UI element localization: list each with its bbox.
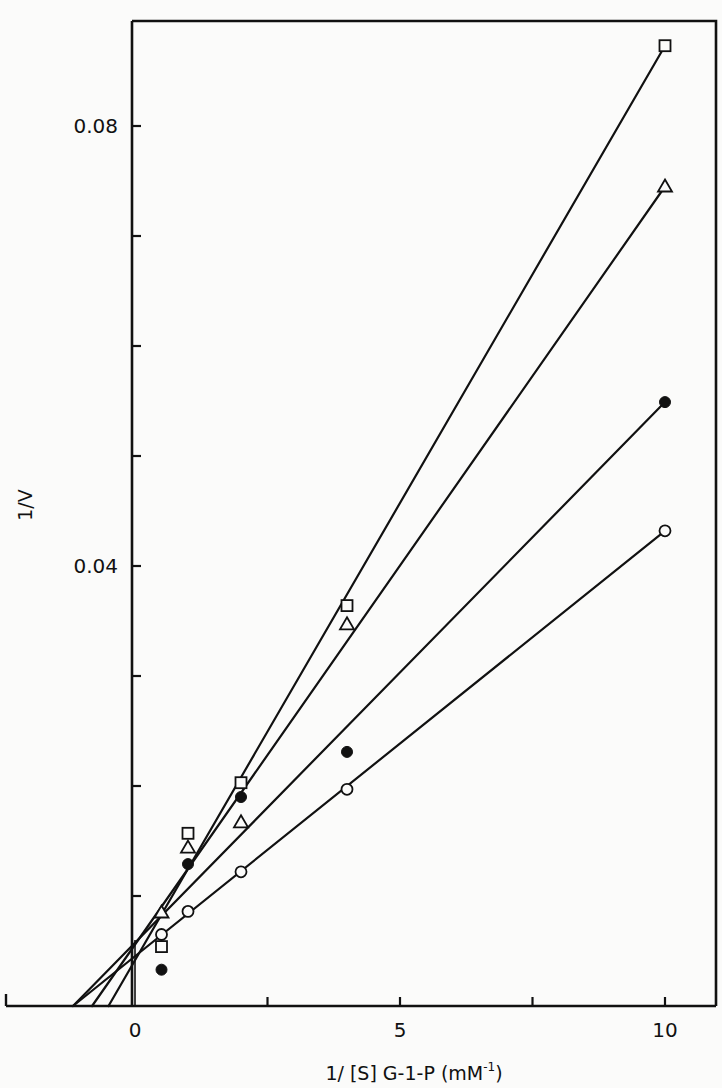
open-triangle-marker <box>181 841 195 853</box>
filled-circle-marker <box>660 397 671 408</box>
open-square-marker <box>236 777 247 788</box>
open-triangle-fit-line <box>92 187 665 1007</box>
open-square-marker <box>660 40 671 51</box>
y-tick-label: 0.04 <box>73 554 118 578</box>
x-axis-title-superscript: -1 <box>483 1060 495 1074</box>
open-circle-marker <box>156 929 167 940</box>
x-tick-label: 5 <box>394 1018 407 1042</box>
x-tick-label: 0 <box>129 1018 142 1042</box>
open-triangle-marker <box>234 815 248 827</box>
filled-circle-marker <box>183 859 194 870</box>
y-axis: 0.040.08 <box>73 21 141 1006</box>
filled-circle-marker <box>156 964 167 975</box>
open-square-marker <box>183 828 194 839</box>
y-axis-title: 1/V <box>14 489 36 521</box>
open-square-marker <box>342 600 353 611</box>
open-triangle-marker <box>340 617 354 629</box>
open-circle-marker <box>183 906 194 917</box>
y-tick-label: 0.08 <box>73 114 118 138</box>
x-tick-label: 10 <box>652 1018 677 1042</box>
open-circle-marker <box>342 784 353 795</box>
data-markers <box>155 40 673 975</box>
filled-circle-marker <box>236 792 247 803</box>
x-axis-title-close: ) <box>495 1062 502 1084</box>
open-square-marker <box>156 941 167 952</box>
filled-circle-marker <box>342 746 353 757</box>
lineweaver-burk-plot: 0510 0.040.08 1/V 1/ [S] G-1-P (mM-1) <box>0 0 722 1088</box>
plot-frame <box>132 21 716 1006</box>
x-axis-title-main: 1/ [S] G-1-P (mM <box>325 1062 483 1084</box>
open-circle-marker <box>236 866 247 877</box>
open-circle-marker <box>660 525 671 536</box>
frame-border <box>132 21 716 1006</box>
x-axis-title: 1/ [S] G-1-P (mM-1) <box>325 1060 502 1084</box>
open-triangle-marker <box>658 180 672 192</box>
fit-lines <box>73 46 665 1006</box>
